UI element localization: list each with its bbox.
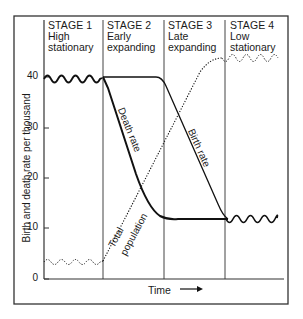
stage-3-subtitle-2: expanding xyxy=(168,42,216,53)
stage-2-subtitle-2: expanding xyxy=(107,42,155,53)
death-rate-line xyxy=(103,77,228,219)
stage-2-header: STAGE 2 Early expanding xyxy=(107,20,155,53)
x-axis-label: Time xyxy=(148,284,171,296)
stage-3-header: STAGE 3 Late expanding xyxy=(168,20,216,53)
stage-1-subtitle-2: stationary xyxy=(48,42,94,53)
stage-4-header: STAGE 4 Low stationary xyxy=(230,20,276,53)
birth-rate-line xyxy=(103,77,228,219)
stage-4-subtitle-2: stationary xyxy=(230,42,276,53)
time-arrow-icon xyxy=(180,286,203,292)
y-tick-40: 40 xyxy=(22,70,38,81)
stage1-rates-wave xyxy=(44,76,102,83)
stage-1-header: STAGE 1 High stationary xyxy=(48,20,94,53)
total-population-stage1-wave xyxy=(44,260,103,265)
stage4-rates-wave xyxy=(226,215,277,222)
y-tick-0: 0 xyxy=(22,272,38,283)
y-ticks xyxy=(44,77,49,279)
outer-frame xyxy=(14,16,288,304)
y-axis-label: Birth and death rate per thousand xyxy=(21,113,32,243)
total-population-stage4-wave xyxy=(222,55,278,62)
